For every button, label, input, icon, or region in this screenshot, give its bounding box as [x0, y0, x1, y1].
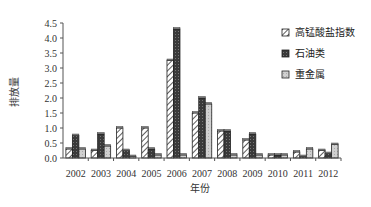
x-axis-label: 年份 — [190, 182, 210, 194]
x-tick-label: 2009 — [243, 168, 263, 179]
legend-swatch — [282, 50, 289, 57]
legend-label: 重金属 — [295, 68, 325, 80]
bar-chart: 0.00.51.01.52.02.53.03.54.04.5 200220032… — [0, 0, 371, 207]
y-tick-label: 2.5 — [45, 78, 58, 89]
x-tick-label: 2010 — [268, 168, 288, 179]
bar — [91, 151, 98, 159]
legend-swatch — [282, 29, 289, 36]
x-tick-label: 2007 — [192, 168, 212, 179]
bar — [218, 131, 225, 158]
bar — [116, 128, 123, 158]
y-tick-label: 0.5 — [45, 138, 58, 149]
bar — [224, 131, 231, 158]
legend-label: 石油类 — [295, 47, 325, 59]
y-tick-label: 4.0 — [45, 33, 58, 44]
x-tick-label: 2005 — [141, 168, 161, 179]
bar — [332, 145, 339, 159]
bar — [72, 136, 79, 159]
y-tick-label: 3.5 — [45, 48, 58, 59]
y-tick-label: 0.0 — [45, 153, 58, 164]
bar — [167, 61, 174, 159]
y-tick-label: 1.0 — [45, 123, 58, 134]
y-tick-label: 4.5 — [45, 18, 58, 29]
legend: 高锰酸盐指数石油类重金属 — [282, 26, 355, 80]
y-tick-label: 3.0 — [45, 63, 58, 74]
bar — [104, 146, 111, 158]
x-tick-label: 2008 — [217, 168, 237, 179]
legend-label: 高锰酸盐指数 — [295, 26, 355, 38]
x-tick-label: 2004 — [116, 168, 136, 179]
bar — [123, 151, 130, 159]
bar — [306, 149, 313, 158]
bar — [148, 149, 155, 158]
x-tick-label: 2002 — [66, 168, 86, 179]
bar — [293, 152, 300, 158]
x-axis: 2002200320042005200620072008200920102011… — [63, 158, 341, 179]
y-tick-label: 1.5 — [45, 108, 58, 119]
legend-swatch — [282, 71, 289, 78]
x-tick-label: 2011 — [293, 168, 313, 179]
y-axis-label: 排放量 — [8, 77, 20, 107]
x-tick-label: 2003 — [91, 168, 111, 179]
bar — [66, 149, 73, 158]
bar — [319, 151, 326, 159]
bar — [325, 154, 332, 159]
bar — [205, 104, 212, 158]
bar — [79, 149, 86, 158]
bar — [192, 113, 199, 158]
bar — [243, 140, 250, 158]
x-tick-label: 2012 — [318, 168, 338, 179]
y-axis: 0.00.51.01.52.02.53.03.54.04.5 — [45, 18, 64, 164]
bar — [142, 128, 149, 158]
bar — [249, 134, 256, 158]
bar — [98, 134, 105, 158]
bar — [199, 98, 206, 158]
x-tick-label: 2006 — [167, 168, 187, 179]
bar — [173, 29, 180, 158]
y-tick-label: 2.0 — [45, 93, 58, 104]
